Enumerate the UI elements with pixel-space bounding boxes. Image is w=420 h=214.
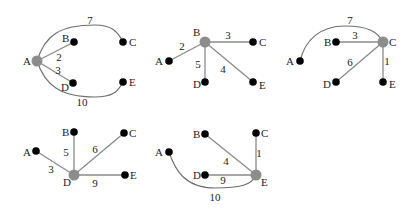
edge-weight-label: 3 (352, 29, 358, 41)
center-node-e (251, 170, 262, 181)
center-node-b (200, 37, 211, 48)
edge-weight-label: 2 (56, 51, 62, 63)
node-label: B (193, 26, 200, 38)
edge-weight-label: 1 (256, 147, 262, 159)
node-b (201, 130, 209, 138)
center-node-a (32, 56, 43, 67)
node-b (332, 38, 340, 46)
node-label: D (61, 81, 69, 93)
node-a (165, 148, 173, 156)
edge-weight-label: 3 (48, 163, 54, 175)
node-label: D (193, 78, 201, 90)
edge-weight-label: 1 (384, 55, 390, 67)
node-a (165, 57, 173, 65)
node-label: A (23, 146, 31, 158)
edge-weight-label: 6 (92, 143, 98, 155)
node-c (249, 38, 257, 46)
node-c (120, 129, 128, 137)
edge-weight-label: 5 (63, 146, 69, 158)
node-label: A (286, 55, 294, 67)
node-label: D (63, 176, 71, 188)
node-d (201, 78, 209, 86)
node-label: B (193, 128, 200, 140)
node-d (201, 171, 209, 179)
node-label: B (324, 36, 331, 48)
node-a (296, 57, 304, 65)
node-label: D (193, 169, 201, 181)
node-e (249, 78, 257, 86)
edge-weight-label: 4 (223, 155, 229, 167)
node-label: E (259, 79, 266, 91)
edge-b-e (205, 42, 253, 82)
node-c (119, 38, 127, 46)
panel-center-c: 3617CABDE (286, 14, 396, 90)
edge-a-c (37, 25, 123, 61)
panel-center-b: 2354BACDE (155, 26, 266, 91)
panel-center-e: 41910EABCD (155, 127, 268, 203)
edge-a-e (37, 61, 123, 97)
star-subgraphs-diagram: 23710ABCDE2354BACDE3617CABDE3569DABCE419… (0, 0, 420, 214)
edge-weight-label: 10 (210, 191, 222, 203)
node-label: A (155, 55, 163, 67)
node-label: E (389, 78, 396, 90)
edge-d-c (74, 133, 124, 175)
node-label: E (130, 169, 137, 181)
panel-center-a: 23710ABCDE (23, 14, 136, 108)
edge-e-a (169, 152, 256, 188)
edge-weight-label: 10 (77, 96, 89, 108)
node-c (252, 129, 260, 137)
node-label: B (62, 32, 69, 44)
node-label: E (129, 76, 136, 88)
node-label: C (259, 36, 266, 48)
edge-weight-label: 2 (179, 40, 185, 52)
panel-center-d: 3569DABCE (23, 126, 137, 189)
node-e (379, 78, 387, 86)
node-label: C (261, 127, 268, 139)
node-label: A (155, 146, 163, 158)
node-label: A (23, 55, 31, 67)
center-node-c (378, 37, 389, 48)
node-a (32, 147, 40, 155)
node-label: C (129, 127, 136, 139)
node-label: B (62, 126, 69, 138)
node-label: C (129, 36, 136, 48)
node-e (119, 78, 127, 86)
node-e (121, 171, 129, 179)
node-label: C (389, 36, 396, 48)
node-label: E (261, 176, 268, 188)
node-b (70, 128, 78, 136)
node-d (332, 78, 340, 86)
edge-weight-label: 7 (347, 14, 353, 26)
edge-weight-label: 5 (195, 58, 201, 70)
edge-weight-label: 3 (55, 64, 61, 76)
edge-weight-label: 9 (92, 177, 98, 189)
edge-weight-label: 3 (225, 29, 231, 41)
edge-weight-label: 7 (87, 14, 93, 26)
edge-e-b (205, 134, 256, 175)
node-b (70, 38, 78, 46)
edge-weight-label: 6 (347, 56, 353, 68)
edge-weight-label: 9 (220, 174, 226, 186)
node-d (69, 79, 77, 87)
edge-weight-label: 4 (220, 63, 226, 75)
edge-c-d (336, 42, 383, 82)
node-label: D (323, 78, 331, 90)
edge-c-a (300, 26, 383, 61)
